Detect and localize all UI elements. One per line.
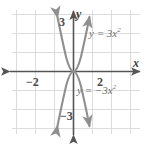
annotation-negative-parabola-exponent: 2 [113, 83, 117, 91]
x-axis-label: x [133, 57, 139, 69]
annotation-positive-parabola-exponent: 2 [117, 26, 121, 34]
annotation-positive-parabola-text: y = 3x [89, 27, 117, 39]
parabola-graph-figure: y = 3x2 y = −3x2 −2 2 3 −3 x y [0, 0, 147, 146]
graph-canvas [0, 0, 147, 146]
x-tick-label-positive-two: 2 [97, 76, 103, 88]
x-tick-label-negative-two: −2 [26, 76, 39, 88]
y-tick-label-negative-three: −3 [60, 110, 73, 122]
annotation-negative-parabola-text: y = −3x [77, 84, 113, 96]
y-axis-label: y [76, 8, 81, 20]
y-tick-label-positive-three: 3 [59, 16, 65, 28]
annotation-positive-parabola: y = 3x2 [89, 27, 121, 39]
